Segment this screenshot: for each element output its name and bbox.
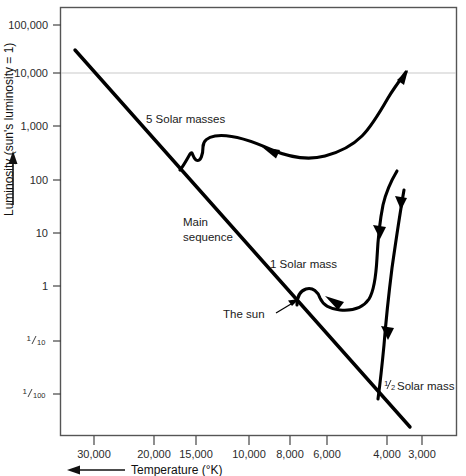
x-tick-label-4000: 4,000 <box>373 448 401 460</box>
y-tick-label-10: 10 <box>36 227 48 239</box>
y-tick-label-1000: 1,000 <box>20 120 48 132</box>
x-tick-label-20000: 20,000 <box>137 448 171 460</box>
chart-svg: 100,000 10,000 1,000 100 10 1 1 10 1 100… <box>0 0 466 476</box>
label-half-solar-mass: Solar mass <box>397 380 455 392</box>
hr-diagram-chart: 100,000 10,000 1,000 100 10 1 1 10 1 100… <box>0 0 466 476</box>
half-solar-fraction-denominator: 2 <box>391 383 395 392</box>
y-axis-title: Luminosity (sun's luminosity = 1) <box>2 43 16 216</box>
x-tick-label-15000: 15,000 <box>179 448 213 460</box>
x-axis-title: Temperature (°K) <box>131 463 223 476</box>
y-tick-tenth-numerator: 1 <box>27 334 32 343</box>
y-tick-label-10000: 10,000 <box>14 67 48 79</box>
label-main-sequence-line2: sequence <box>183 231 233 243</box>
label-5-solar-masses: 5 Solar masses <box>146 113 226 125</box>
y-axis-title-group: Luminosity (sun's luminosity = 1) <box>2 43 18 216</box>
x-tick-label-6000: 6,000 <box>313 448 341 460</box>
x-tick-label-30000: 30,000 <box>77 448 111 460</box>
y-tick-hundredth-numerator: 1 <box>23 387 28 396</box>
y-tick-label-100000: 100,000 <box>8 19 48 31</box>
y-tick-label-1: 1 <box>42 280 48 292</box>
y-tick-label-100: 100 <box>30 174 48 186</box>
y-tick-hundredth-denominator: 100 <box>33 391 46 400</box>
x-tick-label-3000: 3,000 <box>408 448 436 460</box>
label-main-sequence-line1: Main <box>183 216 208 228</box>
label-the-sun: The sun <box>223 308 265 320</box>
y-tick-tenth-denominator: 10 <box>37 338 45 347</box>
x-tick-label-8000: 8,000 <box>276 448 304 460</box>
x-tick-label-10000: 10,000 <box>232 448 266 460</box>
label-1-solar-mass: 1 Solar mass <box>270 258 337 270</box>
